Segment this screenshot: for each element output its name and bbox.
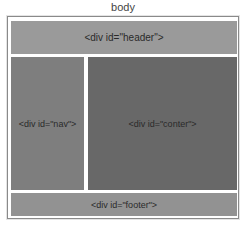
footer-box: <div id="footer">: [11, 193, 237, 216]
header-label: <div id="header">: [84, 32, 163, 43]
content-box: <div id="conter">: [88, 57, 237, 190]
footer-label: <div id="footer">: [91, 200, 157, 210]
header-box: <div id="header">: [11, 21, 237, 54]
content-label: <div id="conter">: [128, 119, 196, 129]
nav-box: <div id="nav">: [11, 57, 84, 190]
nav-label: <div id="nav">: [19, 119, 77, 129]
body-label: body: [0, 0, 246, 16]
